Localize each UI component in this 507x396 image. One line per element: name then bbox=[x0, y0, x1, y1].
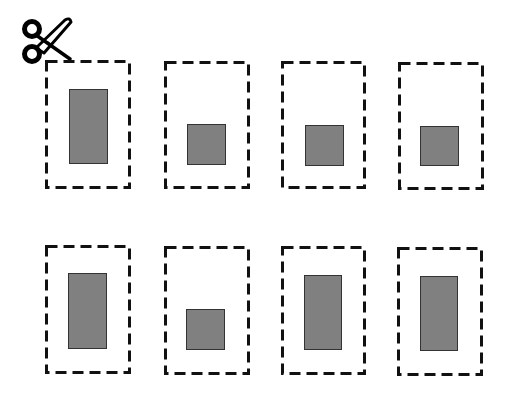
gray-rectangle bbox=[68, 273, 107, 349]
gray-rectangle bbox=[304, 275, 342, 350]
gray-rectangle bbox=[187, 124, 226, 165]
gray-rectangle bbox=[305, 125, 344, 166]
gray-rectangle bbox=[69, 89, 108, 164]
gray-rectangle bbox=[420, 276, 458, 351]
cut-out-card bbox=[45, 245, 131, 374]
cut-out-card bbox=[45, 60, 131, 189]
cut-out-card bbox=[164, 61, 250, 189]
gray-rectangle bbox=[186, 309, 225, 350]
gray-rectangle bbox=[420, 126, 459, 166]
cut-out-card bbox=[281, 61, 366, 189]
cut-out-card bbox=[281, 246, 366, 375]
cut-out-card bbox=[398, 62, 484, 190]
cut-out-card bbox=[397, 247, 483, 376]
cut-out-card bbox=[164, 246, 250, 375]
